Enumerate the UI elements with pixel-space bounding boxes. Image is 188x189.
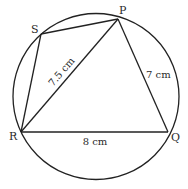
diagram-svg: P S R Q 7.5 cm 7 cm 8 cm [0,0,188,189]
measurement-pq: 7 cm [146,69,171,80]
vertex-label-s: S [31,23,39,36]
segment-sr [21,34,41,132]
cyclic-quadrilateral-diagram: P S R Q 7.5 cm 7 cm 8 cm [0,0,188,189]
measurement-rq: 8 cm [83,136,108,147]
vertex-label-p: P [119,4,127,17]
vertex-label-q: Q [171,131,180,144]
circumcircle [13,14,179,180]
vertex-label-r: R [9,130,18,143]
